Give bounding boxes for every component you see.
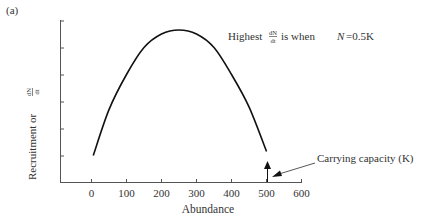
x-axis-ticks	[92, 179, 302, 183]
x-tick-label: 100	[118, 187, 135, 199]
abundance-recruitment-chart: (a) 0100200300400500600 Abundance Recrui…	[0, 0, 426, 222]
carrying-capacity-label: Carrying capacity (K)	[317, 152, 414, 165]
carrying-capacity-vertical-arrow	[264, 161, 271, 182]
peak-annotation-prefix: Highest	[228, 30, 262, 42]
x-axis-label: Abundance	[182, 203, 234, 215]
panel-label: (a)	[6, 4, 19, 17]
x-tick-label: 0	[89, 187, 95, 199]
recruitment-curve	[93, 30, 266, 156]
peak-annotation: Highest dN dt is when N =0.5K	[228, 29, 374, 44]
y-axis-ticks	[61, 21, 65, 156]
peak-annotation-frac-num: dN	[269, 29, 277, 36]
peak-annotation-frac-den: dt	[270, 37, 275, 44]
y-axis-label-frac-num: dN	[25, 88, 32, 96]
peak-annotation-text: is when	[281, 30, 315, 42]
y-axis-label: Recruitment or dN dt	[25, 88, 40, 180]
x-tick-label: 300	[188, 187, 205, 199]
y-axis-label-frac-den: dt	[33, 89, 40, 94]
x-axis: 0100200300400500600	[60, 179, 310, 199]
peak-annotation-var: N	[336, 30, 345, 42]
carrying-capacity-arrow	[272, 163, 315, 177]
x-tick-label: 400	[223, 187, 240, 199]
y-axis	[61, 20, 65, 183]
peak-annotation-value: =0.5K	[346, 30, 374, 42]
x-tick-label: 500	[258, 187, 275, 199]
x-axis-tick-labels: 0100200300400500600	[89, 187, 311, 199]
x-tick-label: 600	[293, 187, 310, 199]
y-axis-label-text: Recruitment or	[26, 113, 38, 180]
x-tick-label: 200	[153, 187, 170, 199]
